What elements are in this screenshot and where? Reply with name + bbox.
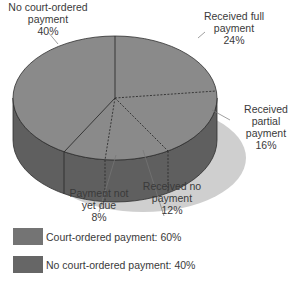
- label-pct: 12%: [137, 204, 207, 216]
- legend-swatch-no-court-ordered: [13, 256, 43, 273]
- label-text: Received full: [188, 10, 280, 22]
- label-text: Received no: [137, 180, 207, 192]
- legend-label: No court-ordered payment: 40%: [46, 259, 195, 271]
- label-text: partial: [240, 115, 292, 127]
- label-text: No court-ordered: [0, 1, 96, 13]
- label-text: Payment not: [64, 187, 134, 199]
- label-pct: 16%: [240, 139, 292, 151]
- label-text: payment: [137, 192, 207, 204]
- label-no-court-ordered: No court-ordered payment 40%: [0, 1, 96, 37]
- label-received-none: Received no payment 12%: [137, 180, 207, 216]
- label-text: yet due: [64, 199, 134, 211]
- label-pct: 24%: [188, 34, 280, 46]
- legend-label: Court-ordered payment: 60%: [46, 231, 181, 243]
- label-text: payment: [240, 127, 292, 139]
- legend-swatch-court-ordered: [13, 228, 43, 245]
- label-text: Received: [240, 103, 292, 115]
- legend-item-no-court-ordered: No court-ordered payment: 40%: [13, 256, 195, 273]
- label-text: payment: [0, 13, 96, 25]
- label-received-full: Received full payment 24%: [188, 10, 280, 46]
- label-not-yet-due: Payment not yet due 8%: [64, 187, 134, 223]
- label-pct: 40%: [0, 25, 96, 37]
- label-text: payment: [188, 22, 280, 34]
- label-pct: 8%: [64, 211, 134, 223]
- legend-item-court-ordered: Court-ordered payment: 60%: [13, 228, 181, 245]
- label-received-partial: Received partial payment 16%: [240, 103, 292, 151]
